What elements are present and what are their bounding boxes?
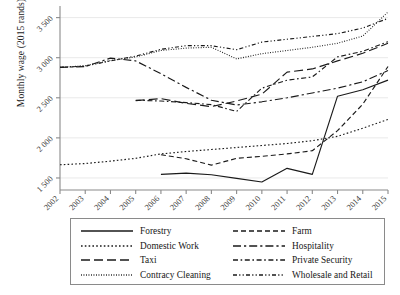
- legend-item[interactable]: Hospitality: [232, 241, 395, 251]
- x-tick-label: 2004: [93, 193, 112, 212]
- x-tick-label: 2002: [42, 194, 60, 212]
- plot-area: 1 5002 0002 5003 0003 500200220032004200…: [0, 0, 400, 215]
- legend-item[interactable]: Contracy Cleaning: [80, 270, 232, 280]
- legend-item[interactable]: Taxi: [80, 255, 232, 265]
- legend-key-solid-icon: [80, 226, 134, 236]
- x-tick-label: 2013: [320, 194, 338, 212]
- legend-key-dashed-icon: [232, 226, 286, 236]
- legend-label: Forestry: [140, 226, 171, 236]
- x-tick-label: 2007: [168, 194, 186, 212]
- x-tick-label: 2014: [345, 193, 364, 212]
- legend-label: Contracy Cleaning: [140, 270, 211, 280]
- legend-key-dash-dot-dot-icon: [232, 270, 286, 280]
- legend-key-dash-dot-icon: [232, 241, 286, 251]
- y-tick-label: 2 000: [35, 134, 55, 154]
- y-tick-label: 2 500: [35, 94, 55, 114]
- legend-key-dotted-icon: [80, 241, 134, 251]
- x-tick-label: 2009: [219, 194, 237, 212]
- x-tick-label: 2010: [244, 194, 262, 212]
- legend-label: Hospitality: [292, 241, 334, 251]
- series-line: [161, 80, 388, 182]
- x-tick-label: 2005: [118, 194, 136, 212]
- legend-item[interactable]: Private Security: [232, 255, 395, 265]
- x-tick-label: 2012: [295, 194, 313, 212]
- x-tick-label: 2006: [143, 194, 161, 212]
- chart-figure: Monthly wage (2015 rands) 1 5002 0002 50…: [0, 0, 400, 295]
- series-line: [136, 42, 388, 112]
- x-tick-label: 2011: [269, 194, 287, 212]
- y-tick-label: 1 500: [35, 174, 55, 194]
- legend-item[interactable]: Farm: [232, 226, 395, 236]
- series-line: [60, 119, 388, 164]
- x-tick-label: 2015: [370, 194, 388, 212]
- legend-key-dashed-long-icon: [80, 255, 134, 265]
- legend-key-dash-dot-short-icon: [232, 255, 286, 265]
- legend-item[interactable]: Forestry: [80, 226, 232, 236]
- legend-label: Private Security: [292, 255, 352, 265]
- series-line: [161, 67, 388, 166]
- legend-label: Wholesale and Retail: [292, 270, 373, 280]
- legend-item[interactable]: Domestic Work: [80, 241, 232, 251]
- legend-item[interactable]: Wholesale and Retail: [232, 270, 395, 280]
- legend-label: Farm: [292, 226, 312, 236]
- x-tick-label: 2008: [194, 194, 212, 212]
- chart-legend: ForestryFarmDomestic WorkHospitalityTaxi…: [70, 218, 385, 285]
- legend-key-fine-dotted-icon: [80, 270, 134, 280]
- y-tick-label: 3 000: [35, 54, 55, 74]
- legend-label: Domestic Work: [140, 241, 199, 251]
- x-tick-label: 2003: [67, 194, 85, 212]
- legend-label: Taxi: [140, 255, 157, 265]
- y-tick-label: 3 500: [35, 14, 55, 34]
- series-line: [136, 43, 388, 106]
